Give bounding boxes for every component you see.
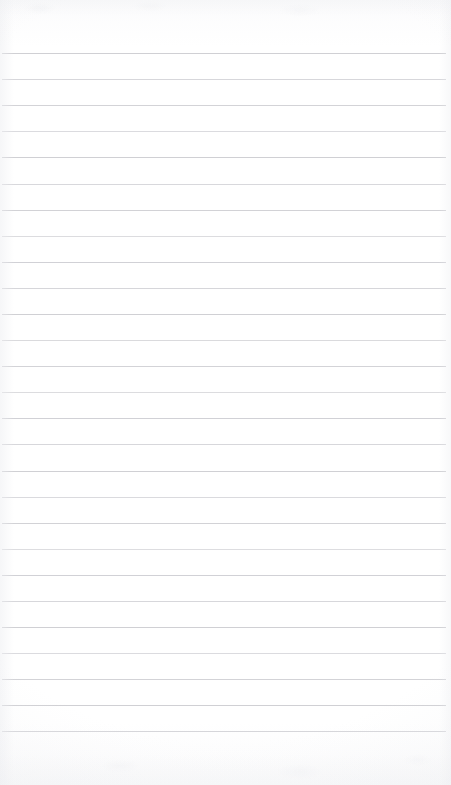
page-text-content xyxy=(0,0,451,785)
notebook-page xyxy=(0,0,451,785)
